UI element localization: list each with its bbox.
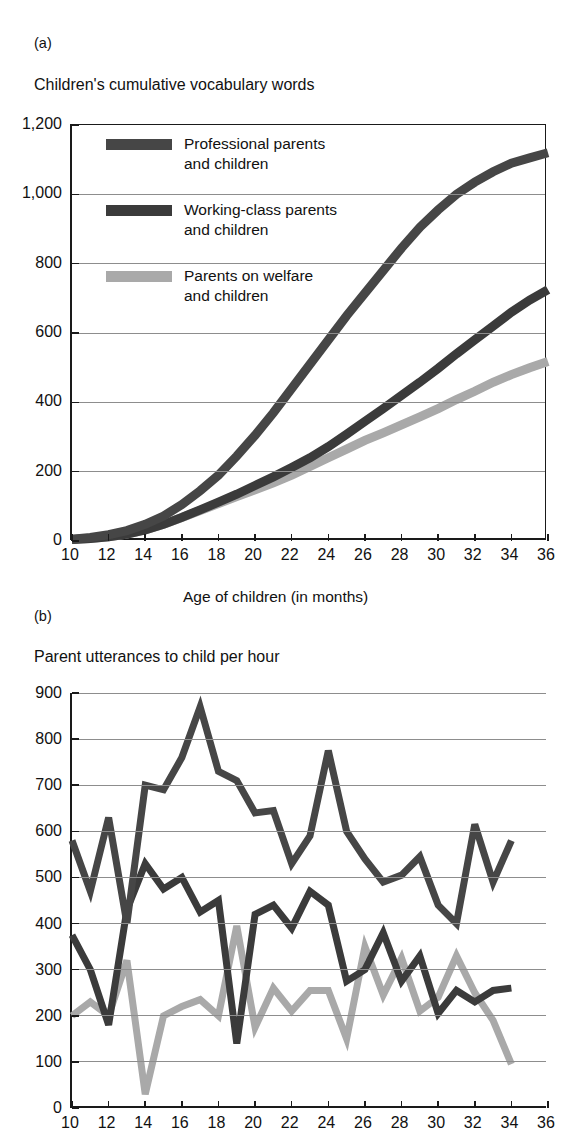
y-axis-label: 100 — [0, 1053, 62, 1071]
x-axis-label: 30 — [427, 546, 445, 564]
x-axis-label: 10 — [61, 546, 79, 564]
y-axis-label: 700 — [0, 776, 62, 794]
y-axis-label: 900 — [0, 684, 62, 702]
y-tick — [72, 969, 79, 971]
y-tick — [72, 692, 79, 694]
x-axis-label: 32 — [464, 1114, 482, 1132]
chart-panel-b — [0, 0, 562, 1146]
x-tick — [511, 1101, 513, 1108]
x-axis-label: 14 — [134, 1114, 152, 1132]
x-axis-label: 12 — [98, 546, 116, 564]
x-tick — [364, 1101, 366, 1108]
x-axis-label: 36 — [537, 1114, 555, 1132]
x-tick — [218, 1101, 220, 1108]
gridline — [72, 831, 546, 832]
x-axis-label: 18 — [208, 546, 226, 564]
gridline — [72, 785, 546, 786]
x-axis-label: 32 — [464, 546, 482, 564]
x-tick — [401, 1101, 403, 1108]
x-axis-label: 34 — [500, 546, 518, 564]
y-tick — [72, 923, 79, 925]
y-axis-label: 200 — [0, 462, 62, 480]
y-axis-label: 800 — [0, 730, 62, 748]
x-tick — [108, 1101, 110, 1108]
x-axis-label: 16 — [171, 546, 189, 564]
figure-page: (a) Children's cumulative vocabulary wor… — [0, 0, 562, 1146]
x-axis-label: 24 — [317, 546, 335, 564]
y-axis-label: 1,200 — [0, 115, 62, 133]
x-axis-label: 36 — [537, 546, 555, 564]
x-axis-label: 28 — [391, 1114, 409, 1132]
x-axis-label: 26 — [354, 1114, 372, 1132]
y-tick — [72, 877, 79, 879]
y-axis-label: 600 — [0, 822, 62, 840]
y-tick — [72, 1107, 79, 1109]
y-axis-label: 600 — [0, 323, 62, 341]
y-axis-label: 200 — [0, 1007, 62, 1025]
x-axis-label: 20 — [244, 1114, 262, 1132]
y-tick — [72, 1015, 79, 1017]
y-tick — [72, 1061, 79, 1063]
x-tick — [144, 1101, 146, 1108]
x-tick — [437, 1101, 439, 1108]
y-axis-label: 0 — [0, 531, 62, 549]
x-tick — [254, 1101, 256, 1108]
y-axis-label: 0 — [0, 1099, 62, 1117]
x-axis-label: 14 — [134, 546, 152, 564]
gridline — [72, 1015, 546, 1016]
x-axis-label: 20 — [244, 546, 262, 564]
x-tick — [474, 1101, 476, 1108]
y-axis-label: 1,000 — [0, 184, 62, 202]
gridline — [72, 877, 546, 878]
y-tick — [72, 738, 79, 740]
y-axis-label: 500 — [0, 868, 62, 886]
x-axis-label: 28 — [391, 546, 409, 564]
x-tick — [547, 1101, 549, 1108]
x-axis-label: 26 — [354, 546, 372, 564]
x-axis-label: 24 — [317, 1114, 335, 1132]
x-axis-label: 22 — [281, 546, 299, 564]
y-tick — [72, 784, 79, 786]
x-axis-label: 16 — [171, 1114, 189, 1132]
x-tick — [328, 1101, 330, 1108]
gridline — [72, 969, 546, 970]
series-line — [72, 926, 511, 1094]
x-tick — [71, 1101, 73, 1108]
y-axis-label: 400 — [0, 392, 62, 410]
gridline — [72, 739, 546, 740]
y-tick — [72, 831, 79, 833]
series-lines-b — [72, 693, 548, 1108]
gridline — [72, 693, 546, 694]
x-tick — [291, 1101, 293, 1108]
x-axis-label: 10 — [61, 1114, 79, 1132]
plot-area-b — [70, 693, 546, 1108]
x-axis-label: 22 — [281, 1114, 299, 1132]
x-axis-label: 30 — [427, 1114, 445, 1132]
y-axis-label: 400 — [0, 915, 62, 933]
x-axis-label: 34 — [500, 1114, 518, 1132]
x-tick — [181, 1101, 183, 1108]
x-axis-label: 12 — [98, 1114, 116, 1132]
y-axis-label: 800 — [0, 254, 62, 272]
x-axis-label: 18 — [208, 1114, 226, 1132]
y-axis-label: 300 — [0, 961, 62, 979]
gridline — [72, 923, 546, 924]
gridline — [72, 1061, 546, 1062]
